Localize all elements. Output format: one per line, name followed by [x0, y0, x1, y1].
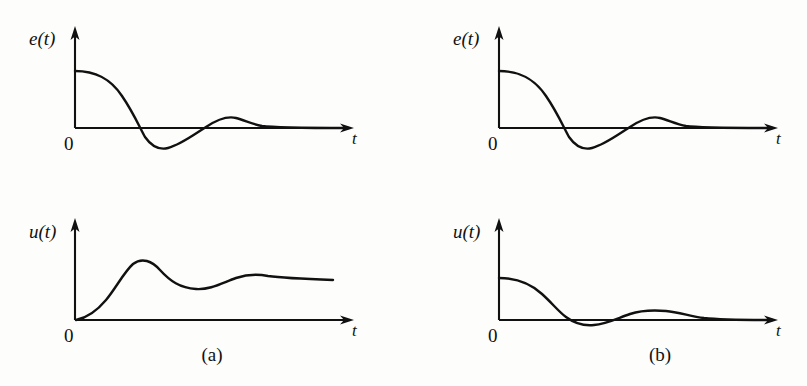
origin-label: 0 [488, 133, 498, 154]
subplot-b-control: u(t) 0 t [453, 218, 782, 346]
y-axis-label: u(t) [453, 221, 480, 243]
panel-a-caption: (a) [201, 344, 222, 366]
y-axis-label: u(t) [29, 221, 56, 243]
x-axis-label: t [352, 321, 358, 340]
error-response-curve [75, 71, 348, 149]
panel-a: e(t) 0 t u(t) 0 t (a) [29, 26, 358, 366]
x-axis-label: t [352, 129, 358, 148]
control-response-curve [499, 278, 772, 325]
panel-b: e(t) 0 t u(t) 0 t (b) [453, 26, 782, 366]
origin-label: 0 [488, 325, 498, 346]
origin-label: 0 [64, 133, 74, 154]
y-axis-label: e(t) [29, 28, 55, 50]
response-curves-figure: e(t) 0 t u(t) 0 t (a) [0, 0, 807, 386]
origin-label: 0 [64, 325, 74, 346]
x-axis-label: t [776, 321, 782, 340]
subplot-a-error: e(t) 0 t [29, 26, 358, 154]
control-response-curve [76, 260, 333, 320]
y-axis-label: e(t) [453, 28, 479, 50]
x-axis-label: t [776, 129, 782, 148]
error-response-curve [499, 71, 772, 149]
panel-b-caption: (b) [649, 344, 671, 366]
figure-container: e(t) 0 t u(t) 0 t (a) [0, 0, 807, 386]
subplot-b-error: e(t) 0 t [453, 26, 782, 154]
subplot-a-control: u(t) 0 t [29, 218, 358, 346]
